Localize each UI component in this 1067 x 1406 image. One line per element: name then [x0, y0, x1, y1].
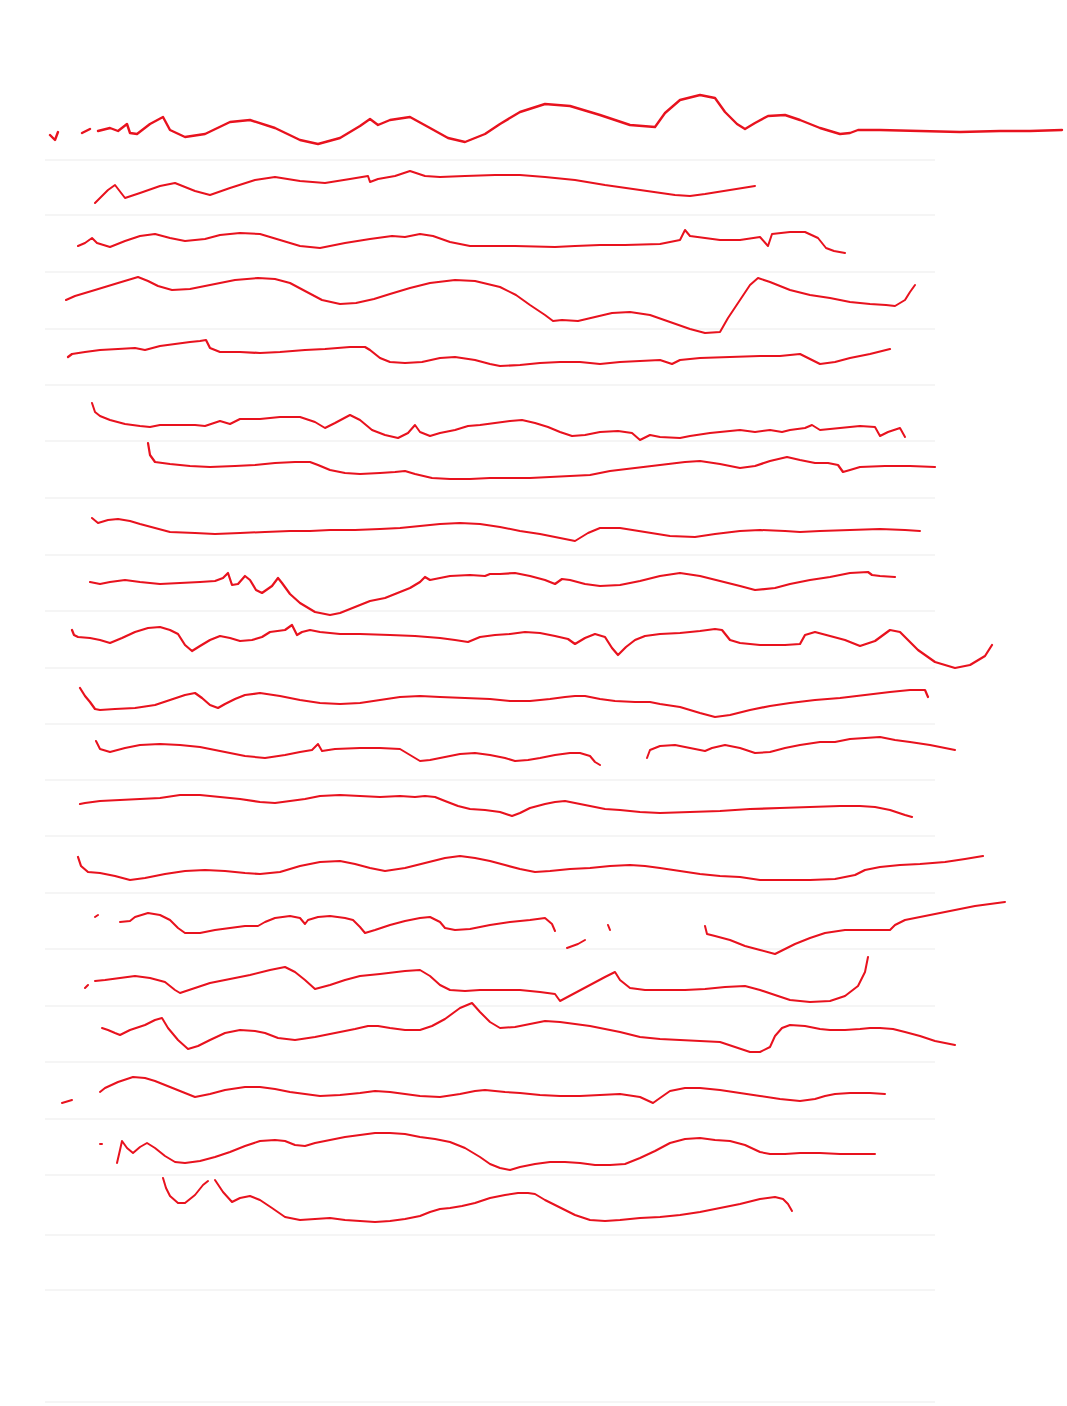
scribble-line	[68, 340, 890, 366]
scribble-line	[96, 737, 955, 765]
ruled-paper-page	[0, 0, 1067, 1406]
scribble-line	[92, 518, 920, 541]
scribble-line	[90, 572, 895, 615]
scribble-line	[163, 1178, 792, 1222]
scribble-line	[92, 403, 905, 440]
handwritten-scribbles	[50, 95, 1062, 1222]
scribble-line	[80, 688, 928, 717]
scribble-line	[78, 230, 845, 253]
scribble-line	[66, 277, 915, 333]
scribble-line	[102, 1003, 955, 1052]
scribble-line	[62, 1077, 885, 1103]
scribble-line	[95, 902, 1005, 954]
scribble-line	[72, 625, 992, 668]
ruled-lines	[45, 160, 935, 1402]
scribble-line	[100, 1133, 875, 1170]
scribble-line	[80, 795, 912, 817]
scribble-line	[95, 171, 755, 203]
page-canvas	[0, 0, 1067, 1406]
scribble-line	[78, 856, 983, 880]
scribble-line	[85, 957, 868, 1002]
scribble-line	[50, 95, 1062, 144]
scribble-line	[148, 443, 935, 479]
